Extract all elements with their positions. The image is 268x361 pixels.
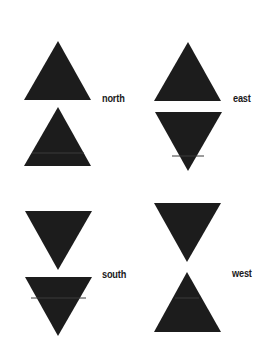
- label-east: east: [233, 94, 251, 104]
- east-group: [154, 42, 222, 171]
- east-triangle-up: [154, 42, 221, 101]
- west-triangle-up: [154, 272, 221, 332]
- west-group: [154, 203, 221, 332]
- north-triangle-up-2: [24, 107, 91, 166]
- label-north: north: [102, 94, 125, 104]
- east-triangle-down: [155, 112, 222, 171]
- north-triangle-up-1: [24, 41, 91, 100]
- label-south: south: [102, 270, 126, 280]
- label-west: west: [232, 269, 252, 279]
- triangle-diagram: [0, 0, 268, 361]
- north-group: [24, 41, 91, 166]
- south-group: [25, 211, 92, 336]
- south-triangle-down-2: [25, 277, 92, 336]
- south-triangle-down-1: [25, 211, 92, 270]
- west-triangle-down: [154, 203, 221, 262]
